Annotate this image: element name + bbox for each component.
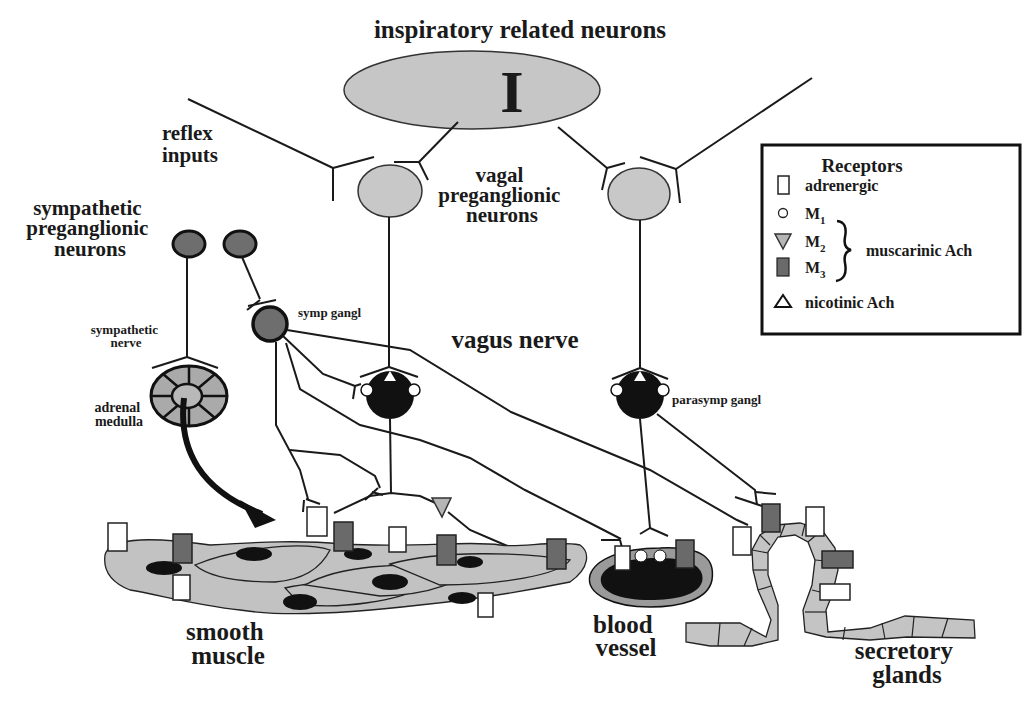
sympathetic-preganglionic-neuron-2 <box>224 231 256 257</box>
secretory-gland <box>686 504 975 646</box>
m3-receptor-icon <box>822 551 853 568</box>
adrenergic-receptor-icon <box>389 527 406 552</box>
sympathetic-ganglion <box>253 307 287 341</box>
label-vagal-preganglionic-neurons: vagal preganglionic neurons <box>438 163 565 227</box>
sympathetic-preganglionic-neuron-1 <box>173 231 205 257</box>
left-vagal-axon <box>360 217 418 377</box>
diagram-title: inspiratory related neurons <box>374 16 666 43</box>
adrenergic-receptor-icon <box>307 507 327 536</box>
preganglionic-to-symp-gangl <box>242 257 276 310</box>
adrenergic-receptor-icon <box>820 584 850 600</box>
adrenergic-receptor-icon <box>108 523 127 551</box>
m3-legend-icon <box>777 258 789 276</box>
label-sympathetic-preganglionic-neurons: sympathetic preganglionic neurons <box>26 196 153 261</box>
m3-receptor-icon <box>676 540 694 568</box>
legend-item-nicotinic: nicotinic Ach <box>805 294 894 311</box>
legend-group-muscarinic: muscarinic Ach <box>866 242 972 259</box>
m1-receptor-icon <box>635 550 647 562</box>
label-parasymp-gangl: parasymp gangl <box>672 392 762 407</box>
adrenergic-receptor-icon <box>478 593 493 617</box>
label-blood-vessel: blood vessel <box>593 611 659 661</box>
right-vagal-neuron <box>608 168 670 220</box>
adrenal-medulla <box>151 366 276 528</box>
label-sympathetic-nerve: sympathetic nerve <box>91 322 161 350</box>
adrenergic-receptor-icon <box>173 575 190 600</box>
adrenergic-legend-icon <box>778 176 789 194</box>
adrenergic-receptor-icon <box>806 507 824 536</box>
label-symp-gangl: symp gangl <box>298 305 362 320</box>
receptor-legend: Receptors adrenergic M1 M2 M3 muscarinic… <box>762 145 1020 334</box>
m3-receptor-icon <box>437 535 456 565</box>
label-adrenal-medulla: adrenal medulla <box>94 400 143 429</box>
inspiratory-neuron: I <box>344 51 600 129</box>
label-vagus-nerve: vagus nerve <box>451 326 578 353</box>
right-vagal-axon <box>612 220 668 379</box>
m3-receptor-icon <box>762 504 780 532</box>
m3-receptor-icon <box>334 522 353 551</box>
left-ganglion-to-muscle <box>334 419 512 548</box>
left-parasympathetic-ganglion <box>361 371 420 419</box>
right-parasympathetic-ganglion <box>611 371 669 419</box>
blood-vessel <box>589 540 712 607</box>
label-secretory-glands: secretory glands <box>855 637 959 688</box>
inspiratory-neuron-label: I <box>500 59 523 125</box>
m3-receptor-icon <box>547 539 566 569</box>
adrenergic-receptor-icon <box>733 527 751 555</box>
adrenergic-receptor-icon <box>615 546 630 570</box>
left-vagal-neuron <box>358 165 422 217</box>
label-smooth-muscle: smooth muscle <box>186 618 270 669</box>
m2-receptor-icon <box>432 498 451 517</box>
m3-receptor-icon <box>173 534 192 563</box>
m1-receptor-icon <box>654 550 666 562</box>
hormone-arrow-icon <box>240 500 276 528</box>
legend-title: Receptors <box>821 155 902 176</box>
m1-legend-icon <box>779 209 788 218</box>
label-reflex-inputs: reflex inputs <box>162 121 218 167</box>
legend-item-adrenergic: adrenergic <box>805 177 878 195</box>
sympathetic-nerve <box>152 257 218 368</box>
